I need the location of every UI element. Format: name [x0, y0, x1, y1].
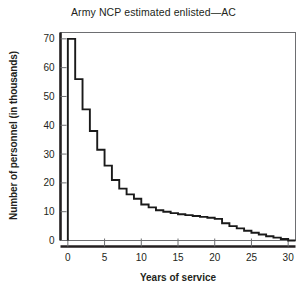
y-tick-label: 10 — [43, 206, 55, 217]
y-tick-label: 50 — [43, 91, 55, 102]
x-tick-label: 10 — [136, 252, 148, 263]
x-tick-label: 5 — [102, 252, 108, 263]
x-axis-ticks: 051015202530 — [65, 239, 294, 264]
x-tick-label: 30 — [283, 252, 295, 263]
x-tick-label: 20 — [209, 252, 221, 263]
y-tick-label: 30 — [43, 149, 55, 160]
x-tick-label: 25 — [246, 252, 258, 263]
x-tick-label: 0 — [65, 252, 71, 263]
plot-area: 010203040506070 051015202530 — [0, 0, 307, 294]
y-tick-label: 0 — [49, 235, 55, 246]
y-tick-label: 20 — [43, 177, 55, 188]
chart-figure: Army NCP estimated enlisted—AC Number of… — [0, 0, 307, 294]
y-tick-label: 70 — [43, 33, 55, 44]
x-tick-label: 15 — [172, 252, 184, 263]
y-tick-label: 60 — [43, 62, 55, 73]
y-tick-label: 40 — [43, 120, 55, 131]
